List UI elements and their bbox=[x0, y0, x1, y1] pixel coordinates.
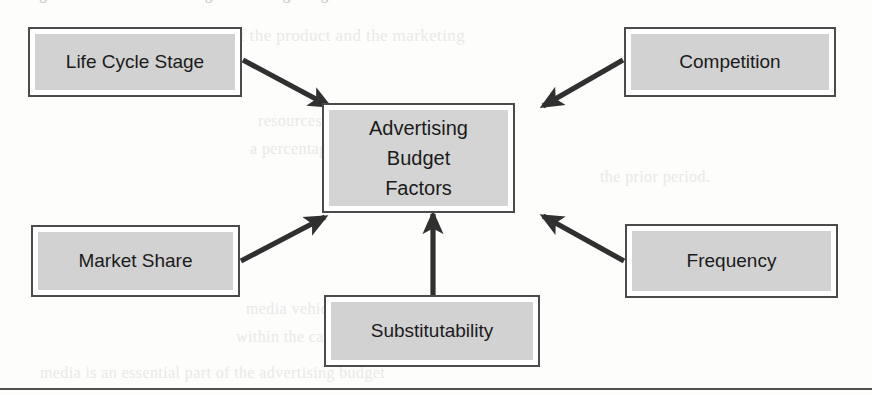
page-divider-rule bbox=[0, 388, 872, 390]
node-market-share[interactable]: Market Share bbox=[31, 225, 240, 297]
node-advertising-budget-factors-label: Advertising Budget Factors bbox=[329, 110, 508, 206]
node-substitutability[interactable]: Substitutability bbox=[324, 295, 540, 367]
arrow-competition-to-center bbox=[543, 60, 623, 106]
node-market-share-label: Market Share bbox=[38, 232, 233, 290]
arrow-market-share-to-center bbox=[241, 217, 325, 261]
arrow-frequency-to-center bbox=[543, 216, 624, 261]
node-frequency[interactable]: Frequency bbox=[625, 224, 838, 298]
figure-canvas: of the product and the marketing resourc… bbox=[0, 0, 872, 395]
node-competition-label: Competition bbox=[631, 34, 829, 90]
node-advertising-budget-factors[interactable]: Advertising Budget Factors bbox=[322, 103, 515, 213]
arrow-life-cycle-stage-to-center bbox=[243, 60, 329, 106]
center-label-line-1: Advertising bbox=[369, 113, 468, 143]
node-life-cycle-stage[interactable]: Life Cycle Stage bbox=[28, 27, 242, 97]
center-label-line-2: Budget bbox=[369, 143, 468, 173]
node-substitutability-label: Substitutability bbox=[331, 302, 533, 360]
node-competition[interactable]: Competition bbox=[624, 27, 836, 97]
node-frequency-label: Frequency bbox=[632, 231, 831, 291]
node-life-cycle-stage-label: Life Cycle Stage bbox=[35, 34, 235, 90]
center-label-line-3: Factors bbox=[369, 173, 468, 203]
